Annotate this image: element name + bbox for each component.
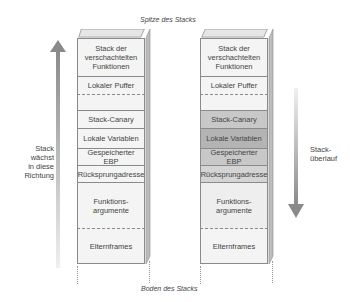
segment-label: Stack-Canary — [87, 115, 134, 124]
segment-label: verschachtelten — [85, 53, 138, 62]
segment-function-arguments: Funktions-argumente — [200, 183, 268, 229]
stack-top-face — [77, 29, 147, 38]
stack-grows-label: Stack wächst in diese Richtung — [14, 144, 54, 180]
segment-label: Rücksprungadresse — [77, 170, 146, 179]
segment-stack-canary: Stack-Canary — [77, 111, 145, 129]
stack-bottom-caption: Boden des Stacks — [141, 285, 197, 292]
segment-saved-ebp: Gespeicherter EBP — [77, 149, 145, 166]
segment-buffer-empty — [200, 95, 268, 111]
segment-stack-canary: Stack-Canary — [200, 111, 268, 129]
segment-label: Funktionen — [215, 62, 252, 71]
segment-label: verschachtelten — [208, 53, 261, 62]
dotted-continuation-left — [77, 266, 78, 284]
segment-local-buffer: Lokaler Puffer — [200, 77, 268, 95]
segment-local-variables: Lokale Variablen — [77, 129, 145, 149]
segment-local-buffer: Lokaler Puffer — [77, 77, 145, 95]
dotted-continuation-right — [272, 261, 273, 283]
label-line: Stack — [14, 144, 54, 153]
segment-parent-frames: Elternframes — [77, 229, 145, 264]
dotted-continuation-right — [149, 261, 150, 283]
segment-label: Lokaler Puffer — [210, 81, 259, 90]
segment-function-arguments: Funktions-argumente — [77, 183, 145, 229]
segment-buffer-empty — [77, 95, 145, 111]
segment-label: Gespeicherter EBP — [201, 148, 267, 166]
segment-label: Rücksprungadresse — [200, 170, 269, 179]
stack-side-face — [145, 29, 151, 265]
stack-top-caption: Spitze des Stacks — [140, 16, 196, 23]
segment-label: Elternframes — [89, 242, 134, 251]
segment-return-address: Rücksprungadresse — [200, 166, 268, 183]
label-line: Richtung — [14, 171, 54, 180]
segment-return-address: Rücksprungadresse — [77, 166, 145, 183]
segment-nested-functions: Stack derverschachteltenFunktionen — [200, 38, 268, 77]
segment-label: Lokaler Puffer — [87, 81, 136, 90]
stack-side-face — [268, 29, 274, 265]
segment-label: argumente — [93, 206, 129, 215]
stack-overflow: Stack derverschachteltenFunktionen Lokal… — [200, 29, 270, 289]
segment-label: Funktions- — [93, 197, 128, 206]
segment-label: Lokale Variablen — [82, 134, 139, 143]
segment-label: argumente — [216, 206, 252, 215]
segment-label: Funktions- — [216, 197, 251, 206]
segment-label: Stack der — [95, 44, 127, 53]
segment-label: Stack der — [218, 44, 250, 53]
arrow-down-icon — [286, 88, 306, 218]
segment-parent-frames: Elternframes — [200, 229, 268, 264]
dotted-continuation-left — [200, 266, 201, 284]
label-line: Stack- — [310, 145, 350, 154]
label-line: wächst — [14, 153, 54, 162]
label-line: in diese — [14, 162, 54, 171]
stack-top-face — [200, 29, 270, 38]
stack-overflow-label: Stack- überlauf — [310, 145, 350, 163]
segment-saved-ebp: Gespeicherter EBP — [200, 149, 268, 166]
stack-normal: Stack derverschachteltenFunktionen Lokal… — [77, 29, 147, 289]
segment-label: Stack-Canary — [210, 115, 257, 124]
segment-label: Elternframes — [212, 242, 257, 251]
segment-label: Lokale Variablen — [205, 134, 262, 143]
segment-label: Gespeicherter EBP — [78, 148, 144, 166]
label-line: überlauf — [310, 154, 350, 163]
segment-label: Funktionen — [92, 62, 129, 71]
segment-local-variables: Lokale Variablen — [200, 129, 268, 149]
segment-nested-functions: Stack derverschachteltenFunktionen — [77, 38, 145, 77]
